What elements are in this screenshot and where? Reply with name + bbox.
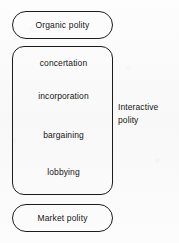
interactive-polity-caption: Interactive polity bbox=[118, 101, 178, 126]
list-item-lobbying: lobbying bbox=[13, 168, 114, 177]
node-market-polity-label: Market polity bbox=[37, 214, 87, 223]
list-item-concertation: concertation bbox=[13, 59, 114, 68]
interactive-polity-caption-line2: polity bbox=[118, 114, 178, 127]
node-organic-polity[interactable]: Organic polity bbox=[12, 11, 113, 39]
interactive-polity-caption-line1: Interactive bbox=[118, 101, 178, 114]
diagram-canvas: Organic polity concertation incorporatio… bbox=[0, 0, 179, 243]
node-market-polity[interactable]: Market polity bbox=[12, 204, 113, 232]
list-item-bargaining: bargaining bbox=[13, 131, 114, 140]
node-organic-polity-label: Organic polity bbox=[35, 21, 89, 30]
list-item-incorporation: incorporation bbox=[13, 92, 114, 101]
node-interactive-polity-box[interactable]: concertation incorporation bargaining lo… bbox=[12, 46, 113, 195]
